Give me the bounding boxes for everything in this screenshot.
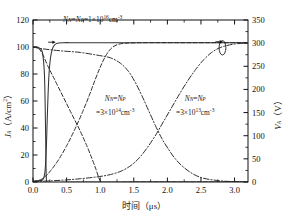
ann-mid-line1: NN=NP (96, 93, 134, 105)
svg-text:1.5: 1.5 (128, 185, 139, 195)
ann-right-s2: P (202, 96, 205, 102)
svg-text:100: 100 (252, 131, 265, 141)
ann-top-eq2: =1×10 (84, 15, 103, 24)
y2-axis-unit: （V） (273, 96, 283, 121)
svg-text:120: 120 (16, 15, 29, 25)
ann-mid-s2: P (122, 96, 125, 102)
svg-text:350: 350 (252, 15, 265, 25)
svg-text:60: 60 (21, 96, 30, 106)
ann-mid-unit-exp: -3 (130, 107, 135, 113)
svg-text:250: 250 (252, 61, 265, 71)
svg-text:20: 20 (21, 150, 30, 160)
svg-text:100: 100 (16, 42, 29, 52)
svg-text:50: 50 (252, 154, 261, 164)
ann-mid-unit: cm (121, 108, 130, 117)
svg-text:2.5: 2.5 (196, 185, 207, 195)
annotation-right: NN=NP =3×1013cm-3 (176, 93, 214, 118)
svg-text:0: 0 (252, 177, 256, 187)
svg-text:150: 150 (252, 108, 265, 118)
svg-text:0: 0 (25, 177, 29, 187)
ann-right-line2: =3×1013cm-3 (176, 105, 214, 118)
svg-text:2.0: 2.0 (162, 185, 173, 195)
ann-top-unit: cm (109, 15, 118, 24)
y-axis-subscript: A (6, 131, 12, 134)
annotation-middle: NN=NP =3×1014cm-3 (96, 93, 134, 118)
y2-axis-variable: V (273, 124, 283, 130)
svg-text:0.0: 0.0 (28, 185, 39, 195)
chart-background (0, 0, 288, 221)
y-axis-unit-exponent: 2 (2, 99, 8, 102)
y-axis-unit: （A/cm (3, 102, 13, 131)
ann-mid-line2: =3×1014cm-3 (96, 105, 134, 118)
ann-right-val: =3×10 (176, 108, 195, 117)
y-axis-variable: J (3, 134, 13, 138)
svg-text:80: 80 (21, 69, 30, 79)
y2-axis-subscript: A (276, 121, 282, 124)
y-axis-unit-close: ） (3, 90, 13, 99)
x-axis-label: 时间（μs） (0, 199, 288, 212)
y-axis-label: JA（A/cm2） (1, 74, 15, 154)
svg-text:0.5: 0.5 (61, 185, 72, 195)
svg-text:300: 300 (252, 38, 265, 48)
svg-text:3.0: 3.0 (229, 185, 240, 195)
chart-svg: 0.00.51.01.52.02.53.00204060801001200501… (0, 0, 288, 221)
svg-text:40: 40 (21, 123, 30, 133)
svg-text:200: 200 (252, 84, 265, 94)
y2-axis-label: VA（V） (271, 78, 285, 148)
svg-text:1.0: 1.0 (95, 185, 106, 195)
ann-mid-val: =3×10 (96, 108, 115, 117)
ann-top-unit-exp: -3 (118, 14, 123, 20)
chart-figure: 0.00.51.01.52.02.53.00204060801001200501… (0, 0, 288, 221)
ann-right-line1: NN=NP (176, 93, 214, 105)
annotation-top: NN=NP=1×1016cm-3 (63, 14, 122, 24)
ann-right-unit: cm (201, 108, 210, 117)
ann-right-unit-exp: -3 (210, 107, 215, 113)
